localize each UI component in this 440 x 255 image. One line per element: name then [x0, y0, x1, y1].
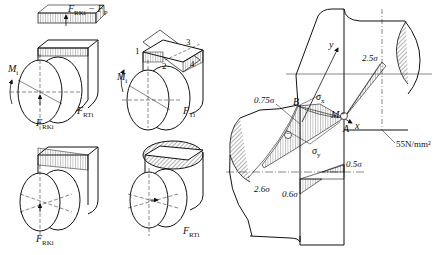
- sigma-y-label: σy: [312, 146, 320, 159]
- panel-a-top-force-label: FRKi − FP: [68, 4, 108, 17]
- panel-c-bottom-force-label: FRKi: [36, 234, 54, 247]
- diagram-canvas: [0, 0, 440, 255]
- panel-a-side-force-label: FRTi: [77, 106, 93, 119]
- panel-d-crank-web: [128, 141, 203, 236]
- value-2-6-sigma: 2.6σ: [254, 185, 270, 194]
- point-a-label: A: [343, 124, 349, 134]
- value-0-75-sigma: 0.75σ: [254, 96, 274, 105]
- panel-b-point-4: 4: [190, 60, 195, 69]
- point-m-label: M: [331, 110, 339, 120]
- panel-d-side-force-label: FRTi: [183, 226, 199, 239]
- point-b-label: B: [293, 97, 299, 107]
- plus-sign: +: [341, 111, 345, 118]
- minus-sign: −: [286, 130, 291, 138]
- x-axis-label: x: [355, 121, 359, 131]
- panel-b-moment-label: Mi: [117, 72, 127, 85]
- y-axis-label: y: [329, 40, 333, 50]
- panel-b-point-2: 2: [162, 62, 167, 71]
- panel-a-moment-label: Mi: [8, 64, 18, 77]
- panel-c-crank-web: [20, 147, 98, 238]
- value-55-n-mm2: 55N/mm²: [396, 140, 431, 149]
- sigma-x-label: σx: [316, 92, 324, 105]
- panel-a-bottom-force-label: FRKi: [36, 118, 54, 131]
- value-2-5-sigma: 2.5σ: [362, 54, 378, 63]
- panel-b-point-1: 1: [135, 47, 140, 56]
- panel-b-side-force-label: FTi: [183, 106, 195, 119]
- panel-b-point-3: 3: [186, 38, 191, 47]
- value-0-5-sigma: 0.5σ: [346, 160, 362, 169]
- value-0-6-sigma: 0.6σ: [282, 190, 298, 199]
